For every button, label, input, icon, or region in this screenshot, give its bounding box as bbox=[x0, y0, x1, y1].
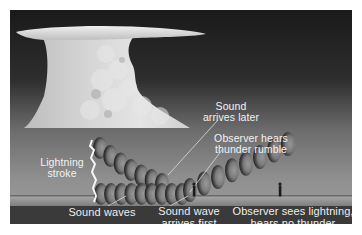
diagram-panel: Sound arrives later Observer hears thund… bbox=[10, 10, 352, 224]
observer-far bbox=[278, 182, 281, 196]
rising-wave-disc bbox=[225, 158, 239, 182]
rising-wave-disc bbox=[197, 171, 211, 195]
label-observer-hears-rumble: Observer hears thunder rumble bbox=[206, 133, 296, 155]
label-sound-waves: Sound waves bbox=[62, 207, 142, 219]
label-sound-arrives-later: Sound arrives later bbox=[196, 101, 266, 123]
observer-near bbox=[192, 182, 195, 196]
thunder-scene bbox=[10, 10, 352, 224]
label-lightning-stroke: Lightning stroke bbox=[34, 157, 90, 179]
rising-wave-disc bbox=[211, 165, 225, 189]
label-sound-wave-arrives-first: Sound wave arrives first bbox=[150, 206, 228, 224]
rising-wave-disc bbox=[239, 152, 253, 176]
label-observer-no-thunder: Observer sees lightning, hears no thunde… bbox=[232, 206, 352, 224]
